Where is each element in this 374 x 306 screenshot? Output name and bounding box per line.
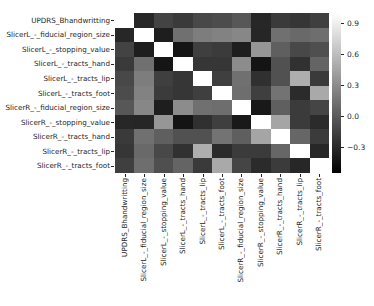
heatmap-cell [212,86,231,101]
heatmap-cell [134,71,153,86]
y-tick-mark [111,78,114,79]
heatmap-cell [193,42,212,57]
heatmap-cell [212,144,231,159]
y-tick-mark [111,49,114,50]
heatmap-cell [251,129,270,144]
heatmap-cell [271,71,290,86]
heatmap-cell [290,100,309,115]
heatmap-cell [134,100,153,115]
heatmap-cell [154,115,173,130]
heatmap-cell [290,71,309,86]
heatmap-cell [251,86,270,101]
heatmap-grid [115,13,329,173]
heatmap-cell [115,28,134,43]
colorbar-tick-label: −0.3 [347,143,365,152]
heatmap-cell [212,158,231,173]
x-tick-mark [319,174,320,177]
heatmap-cell [134,86,153,101]
heatmap-cell [212,13,231,28]
heatmap-cell [290,13,309,28]
y-tick-label: SlicerR_-_fiducial_region_size [5,103,110,112]
heatmap-cell [271,86,290,101]
heatmap-cell [154,100,173,115]
heatmap-cell [134,13,153,28]
heatmap-cell [310,158,329,173]
x-tick-label: SlicerR_-_tracts_lip [295,178,305,246]
x-tick-mark [125,174,126,177]
heatmap-cell [251,57,270,72]
x-tick-mark [222,174,223,177]
heatmap-cell [232,71,251,86]
heatmap-cell [173,13,192,28]
x-tick-label: SlicerR_-_stopping_value [256,178,266,267]
heatmap-cell [271,57,290,72]
y-tick-label: SlicerL_-_tracts_lip [43,74,110,83]
heatmap-cell [193,57,212,72]
heatmap-cell [173,86,192,101]
heatmap-cell [271,129,290,144]
colorbar-tick-label: 0.6 [347,50,359,59]
y-tick-mark [111,93,114,94]
heatmap-cell [212,100,231,115]
y-tick-label: SlicerL_-_tracts_foot [38,89,110,98]
heatmap-cell [115,13,134,28]
heatmap-cell [115,100,134,115]
y-tick-mark [111,166,114,167]
heatmap-cell [310,144,329,159]
heatmap-cell [232,86,251,101]
colorbar-tick-mark [341,85,344,86]
heatmap-cell [290,86,309,101]
heatmap-cell [193,100,212,115]
heatmap-cell [212,71,231,86]
heatmap-cell [154,57,173,72]
x-tick-mark [203,174,204,177]
heatmap-cell [251,71,270,86]
heatmap-cell [251,115,270,130]
heatmap-cell [154,144,173,159]
y-tick-label: SlicerL_-_fiducial_region_size [6,30,110,39]
heatmap-cell [115,158,134,173]
heatmap-cell [193,71,212,86]
heatmap-cell [310,13,329,28]
heatmap-cell [134,115,153,130]
heatmap-cell [193,129,212,144]
heatmap-cell [154,71,173,86]
y-tick-mark [111,122,114,123]
x-tick-mark [164,174,165,177]
heatmap-cell [271,42,290,57]
heatmap-cell [134,129,153,144]
heatmap-cell [115,71,134,86]
heatmap-cell [232,28,251,43]
heatmap-cell [212,115,231,130]
heatmap-cell [134,57,153,72]
x-tick-mark [144,174,145,177]
x-tick-label: SlicerR_-_tracts_foot [314,178,324,251]
heatmap-cell [134,158,153,173]
y-tick-label: SlicerL_-_stopping_value [22,45,110,54]
heatmap-cell [173,158,192,173]
heatmap-cell [271,144,290,159]
heatmap-cell [134,42,153,57]
heatmap-cell [290,28,309,43]
y-tick-label: SlicerR_-_stopping_value [21,118,110,127]
x-tick-label: SlicerL_-_fiducial_region_size [139,178,149,282]
heatmap-cell [212,57,231,72]
heatmap-cell [193,115,212,130]
colorbar-tick-mark [341,23,344,24]
heatmap-cell [271,100,290,115]
heatmap-cell [173,100,192,115]
x-tick-mark [300,174,301,177]
x-tick-label: SlicerL_-_tracts_foot [217,178,227,250]
heatmap-cell [115,42,134,57]
heatmap-cell [310,57,329,72]
heatmap-cell [173,144,192,159]
heatmap-cell [290,115,309,130]
heatmap-cell [212,129,231,144]
heatmap-cell [290,144,309,159]
heatmap-cell [134,28,153,43]
heatmap-cell [232,158,251,173]
heatmap-cell [251,28,270,43]
colorbar-tick-label: 0.3 [347,81,359,90]
x-tick-mark [261,174,262,177]
heatmap-cell [193,144,212,159]
